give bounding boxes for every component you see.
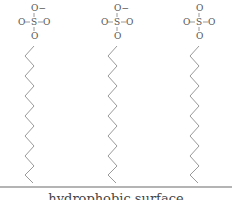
- oxygen-top: O−: [31, 4, 46, 13]
- sulfur: S: [196, 18, 202, 27]
- oxygen-left: O: [183, 18, 190, 27]
- alkyl-chain-2: [108, 46, 117, 183]
- oxygen-bottom: O: [196, 32, 203, 41]
- headgroup-1: O− O S O O: [10, 2, 58, 46]
- headgroup-3: O O S O O: [175, 2, 223, 46]
- sulfur: S: [31, 18, 37, 27]
- surface-label: hydrophobic surface: [0, 191, 232, 200]
- diagram: O− O S O O O− O S O O O O S O O hydropho…: [0, 0, 232, 200]
- alkyl-chain-3: [190, 46, 199, 183]
- alkyl-chain-1: [25, 46, 34, 183]
- oxygen-left: O: [18, 18, 25, 27]
- oxygen-right: O: [208, 18, 215, 27]
- oxygen-top: O: [196, 4, 203, 13]
- headgroup-2: O− O S O O: [93, 2, 141, 46]
- oxygen-left: O: [101, 18, 108, 27]
- oxygen-right: O: [43, 18, 50, 27]
- oxygen-bottom: O: [114, 32, 121, 41]
- sulfur: S: [114, 18, 120, 27]
- oxygen-right: O: [126, 18, 133, 27]
- oxygen-top: O−: [114, 4, 129, 13]
- oxygen-bottom: O: [31, 32, 38, 41]
